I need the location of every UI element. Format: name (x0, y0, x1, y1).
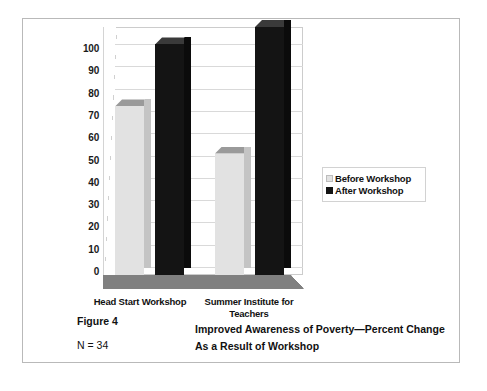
bar-after-summer-institute (255, 27, 284, 275)
y-tick-30: 30 (59, 200, 99, 210)
y-tick-90: 90 (59, 66, 99, 76)
plot-area (103, 27, 303, 289)
bar-front (155, 44, 184, 275)
legend-swatch-before-workshop (326, 175, 333, 182)
legend-item-after-workshop: After Workshop (326, 185, 421, 196)
y-tick-50: 50 (59, 156, 99, 166)
bar-front (215, 154, 244, 276)
bar-front (115, 106, 144, 275)
bar-side (144, 99, 151, 268)
y-tick-80: 80 (59, 89, 99, 99)
bar-side (244, 147, 251, 269)
bar-side (284, 20, 291, 268)
legend-label-after-workshop: After Workshop (335, 185, 403, 196)
bar-before-head-start (115, 106, 144, 275)
figure-sample-size: N = 34 (77, 339, 108, 351)
y-tick-10: 10 (59, 245, 99, 255)
category-label-summer-institute-line1: Summer Institute for (193, 296, 305, 308)
y-tick-20: 20 (59, 222, 99, 232)
y-tick-40: 40 (59, 178, 99, 188)
figure-number: Figure 4 (77, 315, 118, 327)
bar-cap (255, 20, 284, 27)
figure-frame: 100 90 80 70 60 50 40 30 20 10 0 (22, 18, 460, 363)
bar-front (255, 27, 284, 275)
bar-before-summer-institute (215, 154, 244, 276)
bar-chart: 100 90 80 70 60 50 40 30 20 10 0 (23, 19, 461, 364)
chart-legend: Before Workshop After Workshop (322, 167, 426, 202)
bar-after-head-start (155, 44, 184, 275)
figure-caption: Figure 4 N = 34 Improved Awareness of Po… (23, 315, 461, 364)
plot-floor (103, 275, 291, 289)
y-tick-0: 0 (59, 267, 99, 277)
bar-side (184, 37, 191, 268)
y-tick-60: 60 (59, 133, 99, 143)
plot-floor-right-corner (291, 275, 304, 289)
figure-description: Improved Awareness of Poverty—Percent Ch… (195, 321, 445, 355)
y-tick-70: 70 (59, 111, 99, 121)
legend-label-before-workshop: Before Workshop (335, 173, 411, 184)
legend-item-before-workshop: Before Workshop (326, 173, 421, 184)
y-tick-100: 100 (59, 44, 99, 54)
category-label-head-start: Head Start Workshop (85, 296, 195, 308)
legend-swatch-after-workshop (326, 187, 333, 194)
y-axis: 100 90 80 70 60 50 40 30 20 10 0 (59, 25, 99, 285)
